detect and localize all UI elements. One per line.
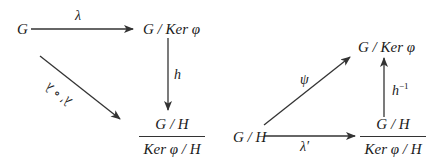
fraction-numerator: G / H — [139, 117, 205, 136]
label-psi: ψ — [300, 73, 309, 87]
node-G-ker-phi-right: G / Ker φ — [358, 40, 415, 55]
label-lambda-prime: λ′ — [300, 140, 309, 154]
label-lambda: λ — [75, 9, 81, 23]
node-G-H: G / H — [233, 130, 266, 145]
node-G-ker-phi: G / Ker φ — [143, 22, 200, 37]
arrow-psi — [264, 57, 350, 125]
label-h: h — [174, 68, 181, 82]
node-fraction-right: G / H Ker φ / H — [360, 117, 426, 157]
fraction-denominator: Ker φ / H — [360, 137, 426, 157]
label-h-superscript: −1 — [399, 81, 409, 91]
fraction-denominator: Ker φ / H — [139, 137, 205, 157]
node-fraction-left: G / H Ker φ / H — [139, 117, 205, 157]
node-G: G — [17, 22, 28, 37]
label-h-inverse: h−1 — [392, 82, 409, 98]
label-h-base: h — [392, 83, 399, 98]
fraction-numerator: G / H — [360, 117, 426, 136]
